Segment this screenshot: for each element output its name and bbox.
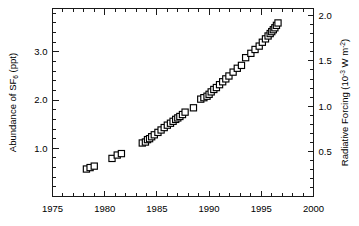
data-point bbox=[238, 62, 244, 68]
y-axis-left-title: Abundance of SF6 (ppt) bbox=[7, 53, 19, 152]
x-tick-label: 1995 bbox=[251, 203, 272, 214]
data-point bbox=[118, 151, 124, 157]
axis-titles: Abundance of SF6 (ppt)Radiative Forcing … bbox=[7, 39, 350, 166]
x-tick-label: 1985 bbox=[146, 203, 167, 214]
x-tick-label: 1990 bbox=[199, 203, 220, 214]
x-tick-label: 2000 bbox=[303, 203, 324, 214]
y-axis-right-title: Radiative Forcing (10-3 W m-2) bbox=[339, 39, 350, 166]
data-point bbox=[91, 163, 97, 169]
y-axis-left-tick-labels: 1.02.03.0 bbox=[34, 46, 47, 153]
figure-container: 197519801985199019952000 1.02.03.0 0.51.… bbox=[0, 0, 359, 226]
scatter-plot: 197519801985199019952000 1.02.03.0 0.51.… bbox=[0, 0, 359, 226]
y-tick-label-left: 3.0 bbox=[34, 46, 47, 57]
x-tick-label: 1975 bbox=[42, 203, 63, 214]
y-axis-right-ticks bbox=[308, 16, 314, 197]
y-tick-label-right: 1.5 bbox=[319, 55, 332, 66]
y-tick-label-left: 1.0 bbox=[34, 143, 47, 154]
y-tick-label-left: 2.0 bbox=[34, 94, 47, 105]
y-tick-label-right: 1.0 bbox=[319, 101, 332, 112]
data-point bbox=[275, 20, 281, 26]
data-point bbox=[190, 105, 196, 111]
y-axis-left-ticks bbox=[53, 13, 59, 196]
data-point bbox=[182, 109, 188, 115]
data-point-markers bbox=[83, 20, 281, 172]
y-tick-label-right: 2.0 bbox=[319, 10, 332, 21]
y-axis-right-tick-labels: 0.51.01.52.0 bbox=[319, 10, 332, 157]
y-tick-label-right: 0.5 bbox=[319, 146, 332, 157]
x-tick-label: 1980 bbox=[94, 203, 115, 214]
x-axis-tick-labels: 197519801985199019952000 bbox=[42, 203, 324, 214]
